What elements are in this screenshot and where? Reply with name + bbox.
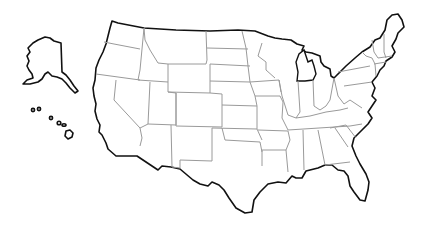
alaska-shape xyxy=(23,37,78,93)
hawaii-shape xyxy=(31,107,73,139)
contiguous-us-shape xyxy=(93,14,404,213)
us-outline-map xyxy=(0,0,423,230)
